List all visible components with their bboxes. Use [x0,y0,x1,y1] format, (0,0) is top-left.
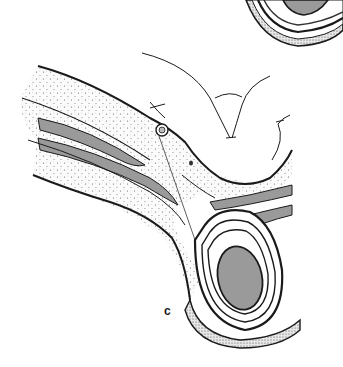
testis-with-tunics [185,210,300,348]
anatomical-illustration [0,0,343,367]
panel-label: c [164,304,171,318]
partial-testis-section [246,0,343,46]
